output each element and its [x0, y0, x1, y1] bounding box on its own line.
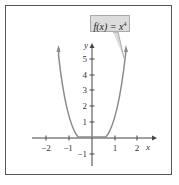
- y-axis-label: y: [83, 40, 88, 50]
- x-tick-label: −1: [63, 143, 73, 153]
- function-label-text: f(x) = x: [93, 21, 123, 32]
- y-tick-label: 2: [83, 101, 88, 111]
- x-tick-label: 1: [113, 143, 118, 153]
- x-axis-label: x: [145, 142, 150, 152]
- y-axis-arrow-icon: [90, 43, 95, 48]
- function-label-exponent: 4: [124, 21, 127, 27]
- curve-arrow-right-icon: [124, 45, 128, 52]
- callout-pointer: [113, 32, 124, 58]
- x-tick-label: 2: [135, 143, 140, 153]
- function-label-callout: f(x) = x4: [90, 15, 130, 32]
- y-tick-label: 1: [83, 117, 88, 127]
- curve-arrow-left-icon: [57, 45, 61, 52]
- y-tick-label: 4: [83, 70, 88, 80]
- x-tick-label: −2: [41, 143, 51, 153]
- y-tick-label: −1: [77, 149, 87, 159]
- x-axis-arrow-icon: [152, 136, 157, 141]
- y-tick-label: 3: [83, 85, 88, 95]
- y-tick-label: 5: [83, 54, 88, 64]
